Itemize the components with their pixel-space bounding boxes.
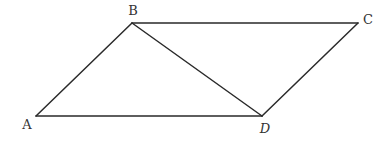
vertex-label-d: D: [259, 121, 271, 136]
segment-ab: [36, 23, 132, 116]
vertex-label-a: A: [21, 117, 32, 132]
edges: [36, 23, 358, 116]
segment-bd: [132, 23, 262, 116]
parallelogram-diagram: A B C D: [0, 0, 391, 143]
segment-cd: [262, 23, 358, 116]
vertex-label-c: C: [363, 12, 373, 27]
vertex-label-b: B: [128, 3, 138, 18]
